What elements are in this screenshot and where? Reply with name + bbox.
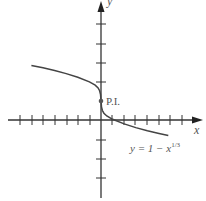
graph-canvas: P.I. x y y = 1 − x1/3 [0,0,206,201]
equation-exponent: 1/3 [171,141,180,149]
x-axis-label: x [193,123,200,137]
equation-label: y = 1 − x1/3 [129,141,181,154]
y-axis-label: y [106,0,113,8]
y-axis-arrow-icon [98,1,105,12]
inflection-point-label: P.I. [106,95,120,107]
equation-main: y = 1 − x [129,142,171,154]
inflection-point-marker [99,99,104,104]
